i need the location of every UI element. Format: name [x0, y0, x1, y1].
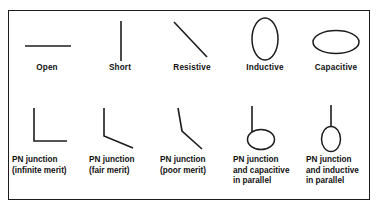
caption-line: and capacitive: [233, 166, 305, 177]
caption-line: PN junction: [89, 155, 161, 166]
symbol-cell-pn-junction-and-inductive-in-parallel: PN junction and inductive in parallel: [303, 99, 371, 199]
caption-line: PN junction: [306, 155, 374, 166]
symbol-caption-short: Short: [85, 63, 155, 74]
caption-line: and inductive: [306, 166, 374, 177]
caption-line: in parallel: [233, 176, 305, 187]
caption-line: PN junction: [12, 155, 90, 166]
line-with-horizontal-loop-symbol: [231, 101, 303, 151]
symbol-caption-pn-junction-infinite-merit: PN junction (infinite merit): [9, 155, 90, 176]
figure-frame: Open Short Resistive: [8, 10, 370, 200]
caption-line: Short: [85, 63, 155, 74]
symbol-caption-pn-junction-and-inductive-in-parallel: PN junction and inductive in parallel: [303, 155, 374, 187]
symbol-caption-open: Open: [9, 63, 85, 74]
symbol-cell-pn-junction-and-capacitive-in-parallel: PN junction and capacitive in parallel: [231, 99, 303, 199]
symbol-cell-pn-junction-poor-merit: PN junction (poor merit): [159, 99, 231, 199]
symbol-cell-pn-junction-fair-merit: PN junction (fair merit): [87, 99, 159, 199]
symbol-caption-inductive: Inductive: [229, 63, 301, 74]
symbol-row-top: Open Short Resistive: [9, 11, 369, 99]
symbol-cell-capacitive: Capacitive: [301, 11, 371, 99]
symbol-cell-open: Open: [9, 11, 85, 99]
diagonal-line-symbol: [155, 13, 229, 61]
caption-line: Inductive: [229, 63, 301, 74]
symbol-caption-capacitive: Capacitive: [301, 63, 371, 74]
line-with-vertical-loop-symbol: [303, 101, 371, 151]
right-angle-elbow-symbol: [9, 101, 87, 151]
caption-line: (poor merit): [160, 166, 232, 177]
symbol-cell-short: Short: [85, 11, 155, 99]
symbol-caption-pn-junction-poor-merit: PN junction (poor merit): [159, 155, 232, 176]
caption-line: in parallel: [306, 176, 374, 187]
vertical-ellipse-symbol: [229, 13, 301, 61]
symbol-caption-pn-junction-and-capacitive-in-parallel: PN junction and capacitive in parallel: [231, 155, 305, 187]
shallow-bend-symbol: [159, 101, 231, 151]
caption-line: (infinite merit): [12, 166, 90, 177]
symbol-caption-resistive: Resistive: [155, 63, 229, 74]
symbol-row-bottom: PN junction (infinite merit) PN junction…: [9, 99, 369, 199]
caption-line: Resistive: [155, 63, 229, 74]
symbol-cell-resistive: Resistive: [155, 11, 229, 99]
caption-line: PN junction: [233, 155, 305, 166]
caption-line: Capacitive: [301, 63, 371, 74]
obtuse-bend-symbol: [87, 101, 159, 151]
caption-line: PN junction: [160, 155, 232, 166]
symbol-cell-inductive: Inductive: [229, 11, 301, 99]
horizontal-ellipse-symbol: [301, 13, 371, 61]
vertical-line-symbol: [85, 13, 155, 61]
horizontal-line-symbol: [9, 13, 85, 61]
symbol-cell-pn-junction-infinite-merit: PN junction (infinite merit): [9, 99, 87, 199]
symbol-caption-pn-junction-fair-merit: PN junction (fair merit): [87, 155, 161, 176]
caption-line: Open: [9, 63, 85, 74]
caption-line: (fair merit): [89, 166, 161, 177]
